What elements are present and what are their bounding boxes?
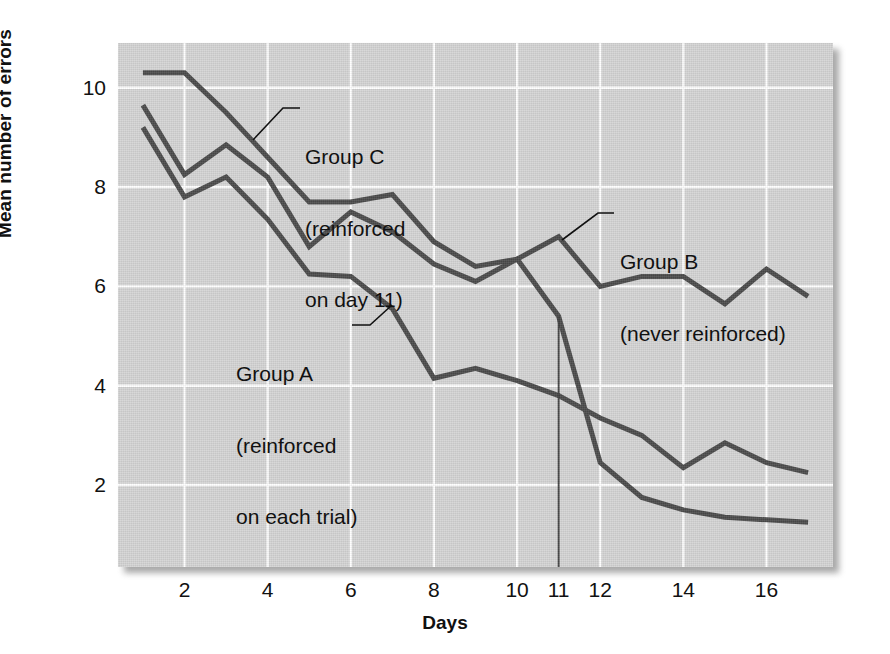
y-tick-label: 2 xyxy=(60,474,106,495)
annotation-group-c-line2: (reinforced xyxy=(305,217,405,241)
y-tick-label: 6 xyxy=(60,275,106,296)
annotation-group-c-line1: Group C xyxy=(305,145,405,169)
annotation-group-a-line3: on each trial) xyxy=(236,505,446,529)
y-axis-label: Mean number of errors xyxy=(0,29,16,238)
x-tick-label: 10 xyxy=(505,579,528,600)
x-tick-label: 14 xyxy=(672,579,695,600)
x-tick-label: 16 xyxy=(755,579,778,600)
x-tick-label: 8 xyxy=(428,579,440,600)
x-tick-label: 6 xyxy=(345,579,357,600)
figure-chart: Mean number of errors 108642 24681011121… xyxy=(0,0,890,654)
annotation-group-c-line3: on day 11) xyxy=(305,288,405,312)
x-tick-label: 2 xyxy=(179,579,191,600)
annotation-group-b: Group B (never reinforced) xyxy=(620,203,786,393)
y-tick-label: 4 xyxy=(60,375,106,396)
x-axis-label: Days xyxy=(0,612,890,634)
annotation-group-a-line2: (reinforced xyxy=(236,434,446,458)
x-tick-label: 11 xyxy=(548,579,570,600)
annotation-group-b-line1: Group B xyxy=(620,250,786,274)
x-tick-label: 12 xyxy=(589,579,612,600)
annotation-group-a: Group A (reinforced on each trial) xyxy=(236,315,446,576)
annotation-group-a-line1: Group A xyxy=(236,362,446,386)
y-tick-label: 8 xyxy=(60,176,106,197)
annotation-group-b-line2: (never reinforced) xyxy=(620,322,786,346)
y-tick-label: 10 xyxy=(60,77,106,98)
x-tick-label: 4 xyxy=(262,579,274,600)
